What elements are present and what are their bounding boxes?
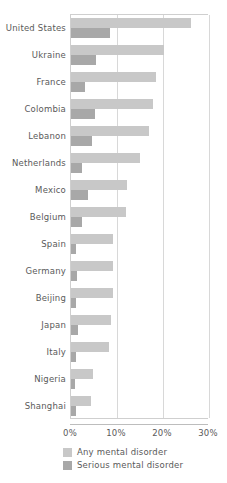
bar-any: [71, 72, 156, 82]
bar-serious: [71, 190, 88, 200]
bar-group: [71, 69, 208, 96]
bar-any: [71, 288, 113, 298]
bar-serious: [71, 298, 76, 308]
bar-group: [71, 177, 208, 204]
bar-serious: [71, 136, 92, 146]
bar-any: [71, 342, 109, 352]
bar-any: [71, 396, 91, 406]
bar-group: [71, 393, 208, 420]
bar-group: [71, 312, 208, 339]
bar-any: [71, 18, 191, 28]
category-label: Ukraine: [0, 50, 66, 60]
category-label: Japan: [0, 320, 66, 330]
category-label: Italy: [0, 347, 66, 357]
legend-label: Serious mental disorder: [77, 460, 183, 470]
bar-group: [71, 339, 208, 366]
bar-any: [71, 99, 153, 109]
bar-group: [71, 123, 208, 150]
bar-group: [71, 366, 208, 393]
category-label: Beijing: [0, 293, 66, 303]
bar-serious: [71, 163, 82, 173]
category-label: Lebanon: [0, 131, 66, 141]
bar-chart: United StatesUkraineFranceColombiaLebano…: [0, 0, 227, 483]
bar-group: [71, 96, 208, 123]
legend-item: Serious mental disorder: [63, 460, 227, 470]
legend-label: Any mental disorder: [77, 447, 167, 457]
bar-serious: [71, 82, 85, 92]
x-axis-line: [70, 424, 208, 425]
plot-area: [70, 14, 208, 419]
bar-serious: [71, 406, 76, 416]
bar-serious: [71, 217, 82, 227]
category-label: Germany: [0, 266, 66, 276]
category-label: Colombia: [0, 104, 66, 114]
bar-serious: [71, 28, 110, 38]
legend-swatch-icon: [63, 461, 72, 470]
bar-group: [71, 15, 208, 42]
category-label: Shanghai: [0, 401, 66, 411]
bar-any: [71, 207, 126, 217]
bar-any: [71, 261, 113, 271]
bar-group: [71, 150, 208, 177]
x-axis-tick-labels: 0%10%20%30%: [0, 428, 227, 442]
legend-swatch-icon: [63, 448, 72, 457]
bar-serious: [71, 352, 76, 362]
category-label: Netherlands: [0, 158, 66, 168]
bar-serious: [71, 55, 96, 65]
chart-legend: Any mental disorderSerious mental disord…: [63, 447, 227, 473]
category-label: Nigeria: [0, 374, 66, 384]
category-label: Mexico: [0, 185, 66, 195]
bar-group: [71, 285, 208, 312]
bar-any: [71, 126, 149, 136]
category-label: Spain: [0, 239, 66, 249]
bar-group: [71, 42, 208, 69]
x-tick-label: 10%: [106, 428, 126, 439]
bar-group: [71, 204, 208, 231]
legend-item: Any mental disorder: [63, 447, 227, 457]
bar-serious: [71, 379, 75, 389]
category-label: France: [0, 77, 66, 87]
bar-any: [71, 234, 113, 244]
category-label: Belgium: [0, 212, 66, 222]
category-label: United States: [0, 23, 66, 33]
bar-serious: [71, 325, 78, 335]
bar-rows: [71, 15, 208, 418]
x-tick-label: 0%: [63, 428, 77, 439]
bar-serious: [71, 271, 77, 281]
x-tick-label: 20%: [152, 428, 172, 439]
bar-any: [71, 180, 127, 190]
bar-group: [71, 258, 208, 285]
bar-any: [71, 153, 140, 163]
bar-group: [71, 231, 208, 258]
bar-any: [71, 315, 111, 325]
gridline-30: [209, 15, 210, 418]
bar-serious: [71, 244, 76, 254]
bar-serious: [71, 109, 95, 119]
category-axis-labels: United StatesUkraineFranceColombiaLebano…: [0, 14, 66, 419]
bar-any: [71, 369, 93, 379]
bar-any: [71, 45, 164, 55]
x-tick-label: 30%: [198, 428, 218, 439]
